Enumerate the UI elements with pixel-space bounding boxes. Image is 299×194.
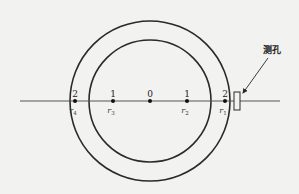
point-number: 2 (222, 89, 228, 99)
point-dot (223, 99, 227, 103)
point-dot (73, 99, 77, 103)
radius-label: r4 (69, 106, 77, 116)
point-number: 1 (184, 89, 190, 99)
point-number: 2 (72, 89, 78, 99)
point-dot (185, 99, 189, 103)
radius-label: r2 (181, 106, 188, 116)
measurement-point-r2: 1 r2 (181, 89, 190, 116)
probe-hole-rect (234, 92, 240, 110)
point-dot (111, 99, 115, 103)
probe-hole-arrow (243, 58, 268, 93)
point-number: 0 (147, 89, 153, 99)
radius-label: r1 (219, 106, 226, 116)
point-number: 1 (110, 89, 116, 99)
radius-label: r3 (107, 106, 115, 116)
point-dot (148, 99, 152, 103)
measurement-diagram: 2 r4 1 r3 0 1 r2 2 r1 测孔 (0, 0, 299, 194)
probe-hole-label: 测孔 (263, 44, 281, 55)
probe-hole: 测孔 (234, 44, 281, 110)
measurement-point-r1: 2 r1 (219, 89, 228, 116)
measurement-point-r3: 1 r3 (107, 89, 116, 116)
